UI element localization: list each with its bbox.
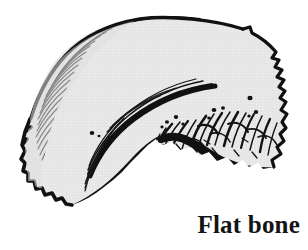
figure-container: Flat bone xyxy=(0,0,308,250)
figure-caption: Flat bone xyxy=(0,210,300,240)
bone-body xyxy=(21,16,287,205)
bone-fill xyxy=(21,16,287,205)
